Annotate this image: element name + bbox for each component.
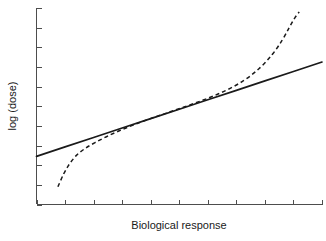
chart-plot-area: Biological response log (dose) xyxy=(0,0,326,241)
y-axis xyxy=(37,8,42,206)
x-axis-ticks xyxy=(38,200,323,205)
y-axis-title: log (dose) xyxy=(6,82,18,131)
x-axis-title: Biological response xyxy=(131,219,226,231)
chart-figure: Biological response log (dose) xyxy=(0,0,326,241)
series-sigmoid-dose-response-curve xyxy=(58,12,299,187)
x-axis xyxy=(37,200,323,205)
y-axis-ticks xyxy=(37,9,42,206)
